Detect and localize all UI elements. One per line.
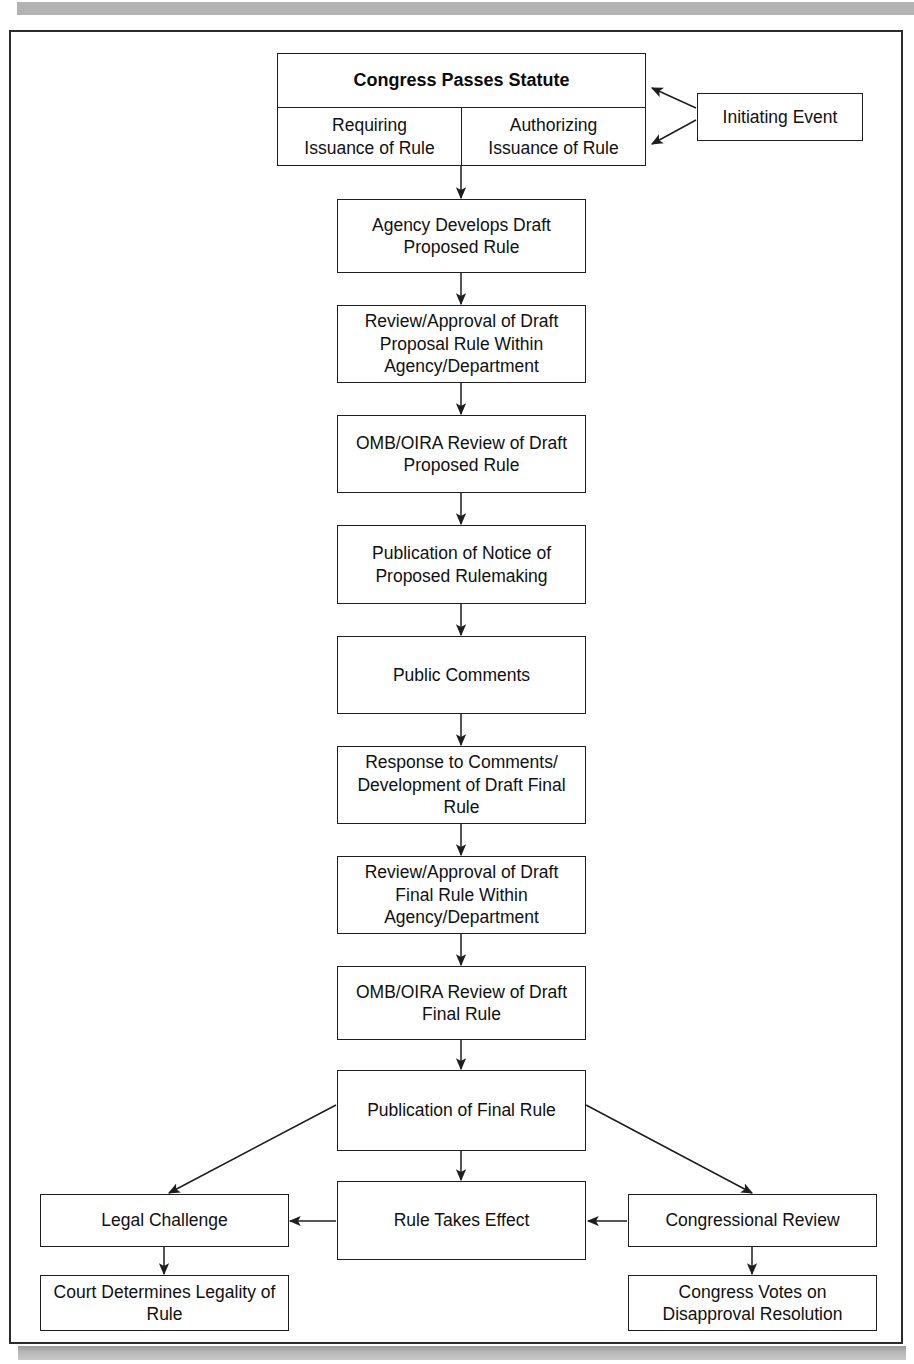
node-legal-challenge: Legal Challenge	[40, 1194, 289, 1247]
statute-column-requiring: Requiring Issuance of Rule	[278, 108, 462, 165]
node-court-determines-legality: Court Determines Legality of Rule	[40, 1275, 289, 1331]
node-initiating-event: Initiating Event	[697, 93, 863, 141]
node-agency-develops-draft: Agency Develops Draft Proposed Rule	[337, 199, 586, 273]
node-review-approval-draft-final-label: Review/Approval of Draft Final Rule With…	[344, 861, 579, 928]
node-public-comments: Public Comments	[337, 636, 586, 714]
node-rule-takes-effect: Rule Takes Effect	[337, 1181, 586, 1260]
node-publication-nprm-label: Publication of Notice of Proposed Rulema…	[344, 542, 579, 587]
node-review-approval-draft-final: Review/Approval of Draft Final Rule With…	[337, 856, 586, 934]
figure-page: Congress Passes Statute Requiring Issuan…	[0, 0, 914, 1364]
statute-requiring-line2: Issuance of Rule	[304, 138, 434, 158]
node-response-to-comments-label: Response to Comments/ Development of Dra…	[344, 751, 579, 818]
node-legal-challenge-label: Legal Challenge	[47, 1209, 282, 1231]
node-publication-final-rule: Publication of Final Rule	[337, 1070, 586, 1151]
statute-requiring-line1: Requiring	[332, 115, 407, 135]
statute-column-authorizing: Authorizing Issuance of Rule	[462, 108, 645, 165]
node-congressional-review-label: Congressional Review	[635, 1209, 870, 1231]
node-agency-develops-draft-label: Agency Develops Draft Proposed Rule	[344, 214, 579, 259]
statute-title: Congress Passes Statute	[278, 54, 645, 108]
node-response-to-comments: Response to Comments/ Development of Dra…	[337, 746, 586, 824]
node-rule-takes-effect-label: Rule Takes Effect	[344, 1209, 579, 1231]
statute-authorizing-line1: Authorizing	[510, 115, 598, 135]
node-review-approval-draft-proposal: Review/Approval of Draft Proposal Rule W…	[337, 305, 586, 383]
node-congress-passes-statute: Congress Passes Statute Requiring Issuan…	[277, 53, 646, 166]
node-congressional-review: Congressional Review	[628, 1194, 877, 1247]
node-omb-oira-review-final-label: OMB/OIRA Review of Draft Final Rule	[344, 981, 579, 1026]
node-omb-oira-review-proposed-label: OMB/OIRA Review of Draft Proposed Rule	[344, 432, 579, 477]
scan-bar-bottom	[18, 1346, 906, 1360]
node-congress-votes-disapproval-label: Congress Votes on Disapproval Resolution	[635, 1281, 870, 1326]
statute-columns: Requiring Issuance of Rule Authorizing I…	[278, 108, 645, 165]
scan-bar-top	[17, 2, 914, 15]
node-initiating-event-label: Initiating Event	[704, 106, 856, 128]
node-publication-nprm: Publication of Notice of Proposed Rulema…	[337, 525, 586, 604]
node-omb-oira-review-final: OMB/OIRA Review of Draft Final Rule	[337, 966, 586, 1040]
node-court-determines-legality-label: Court Determines Legality of Rule	[47, 1281, 282, 1326]
node-public-comments-label: Public Comments	[344, 664, 579, 686]
node-congress-votes-disapproval: Congress Votes on Disapproval Resolution	[628, 1275, 877, 1331]
node-review-approval-draft-proposal-label: Review/Approval of Draft Proposal Rule W…	[344, 310, 579, 377]
node-omb-oira-review-proposed: OMB/OIRA Review of Draft Proposed Rule	[337, 415, 586, 493]
statute-authorizing-line2: Issuance of Rule	[488, 138, 618, 158]
node-publication-final-rule-label: Publication of Final Rule	[344, 1099, 579, 1121]
